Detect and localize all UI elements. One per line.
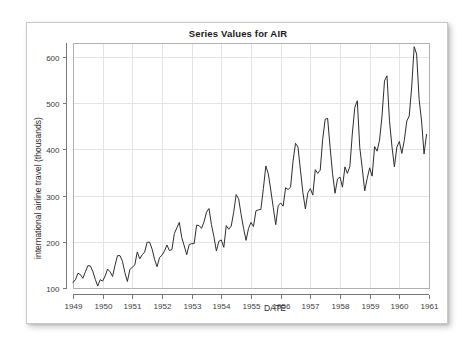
y-axis-title: international airline travel (thousands)	[33, 117, 43, 259]
chart-card: Series Values for AIR 194919501951195219…	[26, 22, 448, 324]
line-chart-plot: 1949195019511952195319541955195619571958…	[27, 23, 449, 325]
series-line-air	[73, 47, 427, 286]
x-tick-label: 1951	[124, 302, 142, 311]
x-tick-label: 1949	[65, 302, 83, 311]
y-axis-tick-labels: 100200300400500600	[46, 54, 60, 294]
x-tick-label: 1950	[95, 302, 113, 311]
x-axis-title: DATE	[264, 303, 286, 313]
x-tick-label: 1958	[332, 302, 350, 311]
gridlines-group	[73, 43, 430, 289]
y-tick-label: 500	[46, 100, 60, 109]
x-tick-label: 1953	[184, 302, 202, 311]
x-tick-label: 1957	[302, 302, 320, 311]
x-tick-label: 1961	[421, 302, 439, 311]
screenshot-root: Series Values for AIR 194919501951195219…	[0, 0, 471, 347]
y-tick-label: 600	[46, 54, 60, 63]
x-axis-tick-labels: 1949195019511952195319541955195619571958…	[65, 302, 439, 311]
x-tick-label: 1955	[243, 302, 261, 311]
y-tick-label: 400	[46, 146, 60, 155]
x-tick-label: 1959	[362, 302, 380, 311]
axis-ticks	[63, 43, 430, 299]
y-tick-label: 100	[46, 285, 60, 294]
y-tick-label: 200	[46, 239, 60, 248]
x-tick-label: 1960	[391, 302, 409, 311]
series-line-path	[73, 47, 427, 286]
y-tick-label: 300	[46, 193, 60, 202]
x-tick-label: 1954	[213, 302, 231, 311]
x-tick-label: 1952	[154, 302, 172, 311]
